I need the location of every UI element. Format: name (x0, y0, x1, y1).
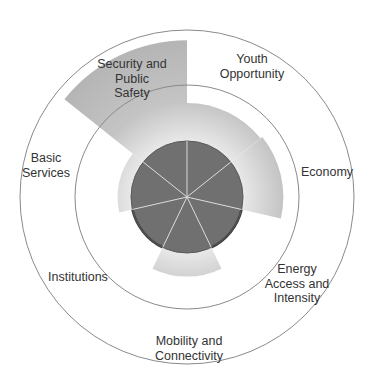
category-label-line: Basic (31, 151, 62, 165)
category-label-line: Opportunity (220, 67, 285, 81)
category-label-line: Energy (277, 262, 317, 276)
category-label-youth-opportunity: YouthOpportunity (220, 52, 285, 81)
category-label-mobility-and-connectivity: Mobility andConnectivity (155, 334, 224, 363)
category-label-line: Services (22, 166, 70, 180)
category-label-energy-access-and-intensity: EnergyAccess andIntensity (265, 262, 330, 305)
category-label-economy: Economy (301, 165, 354, 179)
category-label-line: Economy (301, 165, 354, 179)
category-label-basic-services: BasicServices (22, 151, 70, 180)
core-layer (131, 141, 243, 253)
category-label-line: Connectivity (155, 349, 224, 363)
category-label-line: Safety (114, 86, 150, 100)
category-label-institutions: Institutions (48, 270, 108, 284)
category-label-line: Access and (265, 277, 330, 291)
category-label-line: Youth (236, 52, 268, 66)
category-label-line: Public (115, 72, 149, 86)
category-label-line: Mobility and (156, 334, 223, 348)
category-label-line: Security and (97, 57, 167, 71)
category-label-line: Intensity (274, 291, 321, 305)
polar-chart: YouthOpportunityEconomyEnergyAccess andI… (0, 0, 368, 386)
category-label-line: Institutions (48, 270, 108, 284)
